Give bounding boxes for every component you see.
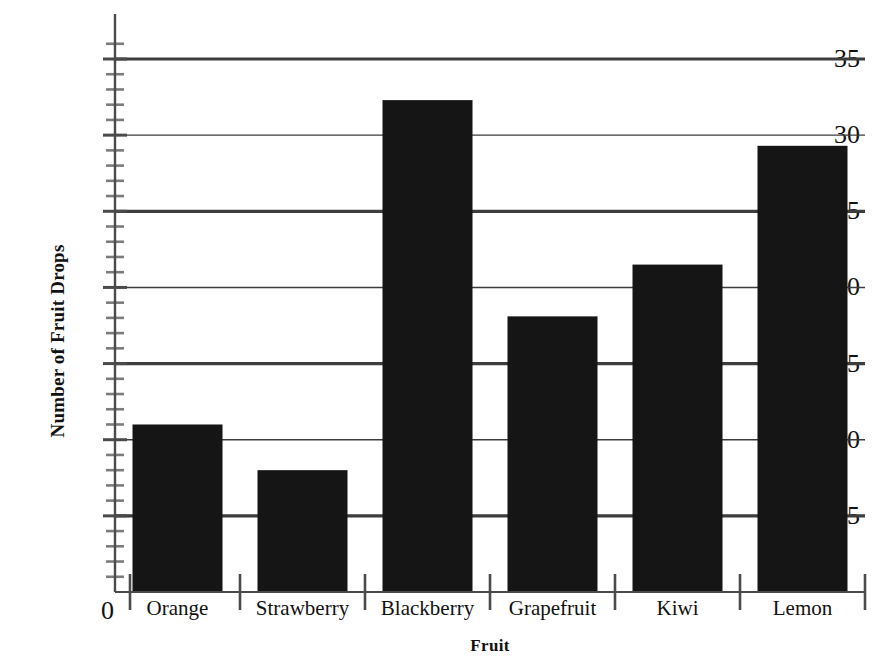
gridlines-group	[115, 59, 865, 516]
axes-group	[115, 14, 865, 592]
bar-strawberry	[258, 470, 348, 592]
bar-chart: Number of Fruit Drops Fruit 0 5101520253…	[0, 0, 874, 668]
bar-orange	[133, 424, 223, 592]
bars-group	[133, 100, 848, 592]
bar-kiwi	[633, 265, 723, 592]
bar-blackberry	[383, 100, 473, 592]
plot-area	[0, 0, 874, 668]
bar-grapefruit	[508, 316, 598, 592]
bar-lemon	[758, 146, 848, 592]
